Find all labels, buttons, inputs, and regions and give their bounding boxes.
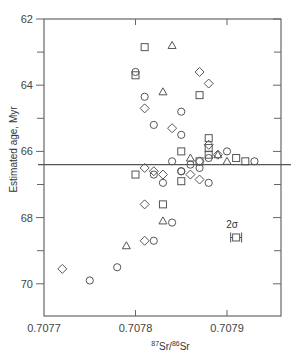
y-tick-label: 62 [21, 13, 33, 25]
square-marker [159, 201, 166, 208]
error-bar-legend: 2σ [226, 219, 241, 242]
circle-marker [169, 158, 176, 165]
square-marker [141, 44, 148, 51]
plot-border [44, 19, 281, 316]
x-tick-label: 0.7078 [119, 322, 153, 334]
diamond-marker [186, 170, 195, 179]
x-axis-title: 87Sr/86Sr [151, 340, 190, 352]
diamond-marker [195, 175, 204, 184]
error-bar-label: 2σ [226, 219, 239, 230]
square-marker [178, 148, 185, 155]
circle-marker [86, 277, 93, 284]
square-marker [205, 145, 212, 152]
diamond-marker [204, 79, 213, 88]
diamond-marker [58, 264, 67, 273]
circle-marker [178, 108, 185, 115]
y-tick-label: 64 [21, 79, 33, 91]
diamond-marker [140, 104, 149, 113]
circle-marker [251, 158, 258, 165]
y-axis-title: Estimated age, Myr [8, 106, 19, 193]
triangle-marker [168, 41, 176, 48]
axis-ticks [36, 19, 281, 316]
diamond-marker [140, 236, 149, 245]
circle-marker [114, 264, 121, 271]
diamond-marker [140, 200, 149, 209]
triangle-marker [186, 154, 194, 161]
square-marker [233, 234, 240, 241]
square-marker [178, 178, 185, 185]
circle-marker [141, 93, 148, 100]
circle-marker [178, 131, 185, 138]
triangle-marker [223, 157, 231, 164]
circle-marker [205, 179, 212, 186]
y-tick-label: 68 [21, 212, 33, 224]
axis-labels: 62646668700.70770.70780.707987Sr/86SrEst… [8, 13, 244, 352]
triangle-marker [159, 88, 167, 95]
plot-frame [44, 19, 281, 316]
circle-marker [150, 237, 157, 244]
x-tick-label: 0.7077 [27, 322, 61, 334]
y-tick-label: 66 [21, 145, 33, 157]
scatter-chart: 2σ 62646668700.70770.70780.707987Sr/86Sr… [0, 0, 292, 359]
diamond-marker [158, 170, 167, 179]
square-marker [242, 158, 249, 165]
circle-marker [150, 171, 157, 178]
diamond-marker [168, 124, 177, 133]
x-tick-label: 0.7079 [210, 322, 244, 334]
diamond-marker [195, 67, 204, 76]
square-marker [233, 155, 240, 162]
square-marker [196, 92, 203, 99]
triangle-marker [122, 242, 130, 249]
data-markers [58, 41, 258, 284]
circle-marker [169, 219, 176, 226]
circle-marker [159, 179, 166, 186]
circle-marker [150, 121, 157, 128]
triangle-marker [159, 217, 167, 224]
circle-marker [178, 168, 185, 175]
circle-marker [223, 148, 230, 155]
y-tick-label: 70 [21, 278, 33, 290]
square-marker [132, 171, 139, 178]
